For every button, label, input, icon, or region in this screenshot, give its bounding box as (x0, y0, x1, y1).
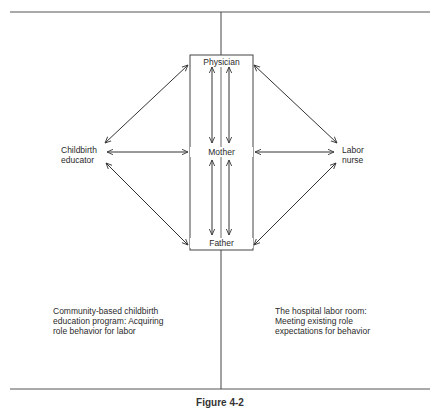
educator-line-1: Childbirth (61, 145, 97, 155)
right-line-1: The hospital labor room: (275, 306, 370, 316)
left-line-1: Community-based childbirth (53, 306, 164, 316)
nurse-line-1: Labor (342, 145, 364, 155)
right-line-2: Meeting existing role (275, 316, 370, 326)
figure-caption: Figure 4-2 (0, 397, 440, 408)
arrow-nurse-father (254, 163, 336, 245)
region-left-description: Community-based childbirth education pro… (53, 306, 164, 336)
node-mother: Mother (190, 147, 253, 157)
educator-line-2: educator (61, 155, 97, 165)
arrow-nurse-physician (254, 65, 337, 143)
right-line-3: expectations for behavior (275, 326, 370, 336)
node-physician: Physician (190, 57, 253, 67)
node-father: Father (190, 238, 253, 248)
node-childbirth-educator: Childbirth educator (61, 145, 97, 165)
region-right-description: The hospital labor room: Meeting existin… (275, 306, 370, 336)
arrow-educator-father (106, 163, 188, 245)
node-labor-nurse: Labor nurse (342, 145, 364, 165)
nurse-line-2: nurse (342, 155, 364, 165)
left-line-2: education program: Acquiring (53, 316, 164, 326)
left-line-3: role behavior for labor (53, 326, 164, 336)
arrow-educator-physician (105, 65, 188, 143)
